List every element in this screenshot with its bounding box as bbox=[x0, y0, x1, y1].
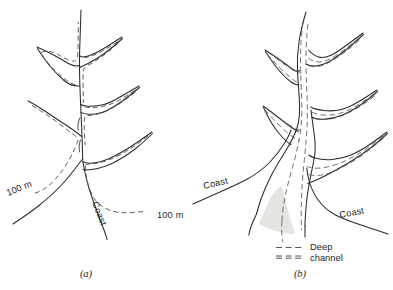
coast-label-a: Coast bbox=[90, 200, 109, 227]
estuary-figure-canvas: 100 m 100 m Coast (a) bbox=[0, 0, 393, 290]
contour-label-right-a: 100 m bbox=[157, 210, 184, 220]
coast-branch-upper-right-a bbox=[80, 37, 122, 57]
panel-a-coastlines bbox=[13, 10, 153, 240]
legend-title-line-2: channel bbox=[310, 252, 343, 263]
coast-trunk-left-b bbox=[257, 12, 307, 214]
coast-branch-mid-left-a bbox=[28, 101, 82, 137]
coast-label-left-b: Coast bbox=[202, 176, 229, 191]
contour-outer-left-a bbox=[32, 140, 78, 194]
contour-upper-right-a bbox=[82, 42, 118, 58]
coast-mouth-left-b bbox=[249, 214, 257, 235]
channel-trunk-west-b bbox=[282, 22, 303, 221]
coast-branch-upper-left-lower-a bbox=[38, 49, 80, 87]
panel-b: Coast Coast Deep channel (b) bbox=[193, 12, 388, 280]
panel-a-contours bbox=[32, 22, 148, 213]
coast-branch-mid-right-lower-a bbox=[81, 88, 140, 115]
legend-deep-channel: Deep channel bbox=[276, 241, 343, 263]
contour-mid-left-a bbox=[32, 106, 78, 139]
panel-caption-a: (a) bbox=[80, 268, 93, 280]
panel-b-coastlines bbox=[193, 12, 388, 237]
panel-b-channels bbox=[265, 22, 384, 243]
contour-upper-left-a bbox=[41, 22, 78, 61]
coast-branch-lower-right-b bbox=[309, 132, 387, 160]
channel-mid-right-outer-b bbox=[312, 94, 375, 115]
coast-branch-upper-right-b bbox=[309, 33, 364, 58]
contour-mid-right-return-a bbox=[84, 92, 135, 145]
contour-label-left-a: 100 m bbox=[5, 179, 33, 198]
channel-lower-right-outer-b bbox=[307, 136, 383, 168]
coast-tributary-tick-2-a bbox=[79, 140, 80, 152]
panel-a: 100 m 100 m Coast (a) bbox=[5, 10, 184, 280]
sediment-bank-b bbox=[259, 186, 295, 234]
coast-branch-mid-right-a bbox=[81, 86, 139, 106]
panel-a-labels: 100 m 100 m Coast (a) bbox=[5, 179, 184, 280]
figure-root: 100 m 100 m Coast (a) bbox=[0, 0, 393, 290]
coast-outer-right-b bbox=[307, 168, 388, 234]
coast-label-right-b: Coast bbox=[338, 205, 365, 220]
coast-mouth-a bbox=[83, 161, 107, 240]
panel-caption-b: (b) bbox=[294, 268, 307, 280]
channel-mid-left-outer-b bbox=[265, 110, 300, 141]
panel-b-sediment bbox=[259, 186, 295, 234]
coast-branch-lower-right-a bbox=[83, 132, 152, 163]
coast-main-trunk-a bbox=[79, 10, 82, 160]
legend-title-line-1: Deep bbox=[310, 241, 332, 252]
channel-mid-right-inner-b bbox=[313, 96, 375, 120]
coast-tributary-tick-1-a bbox=[78, 118, 80, 130]
channel-upper-left-outer-b bbox=[267, 54, 301, 84]
